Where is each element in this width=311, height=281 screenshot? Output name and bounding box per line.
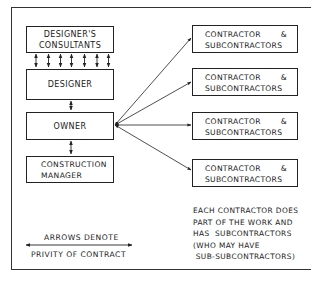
diagram-canvas: DESIGNER'S CONSULTANTS DESIGNER OWNER CO… bbox=[0, 0, 311, 281]
contractor-label: CONTRACTOR bbox=[205, 72, 261, 83]
ampersand: & bbox=[281, 72, 287, 83]
cm-label-line1: CONSTRUCTION bbox=[41, 159, 107, 170]
subcontractors-label: SUBCONTRACTORS bbox=[205, 40, 297, 51]
contractor-note: EACH CONTRACTOR DOES PART OF THE WORK AN… bbox=[193, 205, 298, 263]
designer-box: DESIGNER bbox=[26, 69, 114, 100]
subcontractors-label: SUBCONTRACTORS bbox=[205, 174, 297, 185]
contractor-box-4: CONTRACTOR& SUBCONTRACTORS bbox=[192, 159, 298, 187]
subcontractors-label: SUBCONTRACTORS bbox=[205, 83, 297, 94]
contractor-label: CONTRACTOR bbox=[205, 116, 261, 127]
owner-label: OWNER bbox=[54, 121, 87, 132]
legend-line2: PRIVITY OF CONTRACT bbox=[31, 250, 126, 259]
contractor-label: CONTRACTOR bbox=[205, 163, 261, 174]
consultant-designer-arrows bbox=[36, 54, 109, 67]
owner-box: OWNER bbox=[26, 112, 114, 140]
consultants-label-line1: DESIGNER'S bbox=[44, 29, 97, 40]
ampersand: & bbox=[281, 163, 287, 174]
consultants-box: DESIGNER'S CONSULTANTS bbox=[26, 26, 114, 53]
contractor-box-1: CONTRACTOR& SUBCONTRACTORS bbox=[192, 25, 298, 53]
consultants-label-line2: CONSULTANTS bbox=[39, 40, 101, 51]
cm-label-line2: MANAGER bbox=[41, 170, 82, 181]
ampersand: & bbox=[281, 29, 287, 40]
construction-manager-box: CONSTRUCTION MANAGER bbox=[26, 156, 114, 183]
contractor-label: CONTRACTOR bbox=[205, 29, 261, 40]
legend-line1: ARROWS DENOTE bbox=[44, 233, 119, 242]
contractor-box-3: CONTRACTOR& SUBCONTRACTORS bbox=[192, 112, 298, 140]
contractor-box-2: CONTRACTOR& SUBCONTRACTORS bbox=[192, 68, 298, 96]
designer-label: DESIGNER bbox=[48, 79, 93, 90]
subcontractors-label: SUBCONTRACTORS bbox=[205, 127, 297, 138]
owner-contractor-arrows bbox=[115, 38, 191, 170]
ampersand: & bbox=[281, 116, 287, 127]
